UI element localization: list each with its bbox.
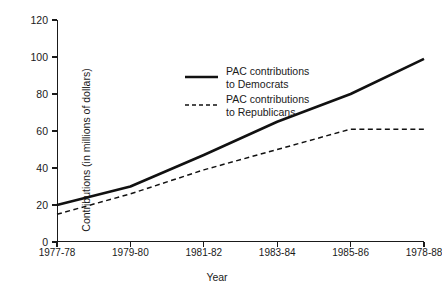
- x-tick-mark: [203, 242, 204, 247]
- y-tick-label: 20: [36, 200, 48, 211]
- legend-item-1[interactable]: PAC contributionsto Democrats: [185, 66, 365, 94]
- x-axis-label: Year: [0, 272, 434, 283]
- x-tick-mark: [277, 242, 278, 247]
- legend-label-line2: to Republicans: [226, 106, 309, 119]
- x-tick-label: 1983-84: [259, 248, 296, 258]
- series-lines: [57, 20, 424, 242]
- legend-label-line2: to Democrats: [226, 78, 309, 91]
- chart-legend: PAC contributionsto DemocratsPAC contrib…: [185, 66, 365, 122]
- y-tick-label: 120: [30, 15, 48, 26]
- legend-line-swatch: [185, 103, 218, 107]
- x-tick-mark: [350, 242, 351, 247]
- x-tick-label: 1981-82: [185, 248, 222, 258]
- x-tick-label: 1985-86: [332, 248, 369, 258]
- legend-line-swatch: [185, 75, 218, 79]
- legend-label-line1: PAC contributions: [226, 93, 309, 106]
- x-tick-label: 1979-80: [112, 248, 149, 258]
- legend-label: PAC contributionsto Democrats: [226, 65, 309, 90]
- x-tick-label: 1978-88: [406, 248, 442, 258]
- x-tick-label: 1977-78: [39, 248, 76, 258]
- plot-area: PAC contributionsto DemocratsPAC contrib…: [57, 20, 424, 242]
- legend-label-line1: PAC contributions: [226, 65, 309, 78]
- y-tick-label: 0: [42, 237, 48, 248]
- legend-label: PAC contributionsto Republicans: [226, 93, 309, 118]
- series-line-2: [57, 129, 424, 214]
- legend-item-2[interactable]: PAC contributionsto Republicans: [185, 94, 365, 122]
- y-tick-label: 80: [36, 89, 48, 100]
- x-tick-mark: [423, 242, 424, 247]
- y-tick-label: 60: [36, 126, 48, 137]
- x-tick-mark: [56, 242, 57, 247]
- y-tick-label: 40: [36, 163, 48, 174]
- y-tick-label: 100: [30, 52, 48, 63]
- x-tick-mark: [130, 242, 131, 247]
